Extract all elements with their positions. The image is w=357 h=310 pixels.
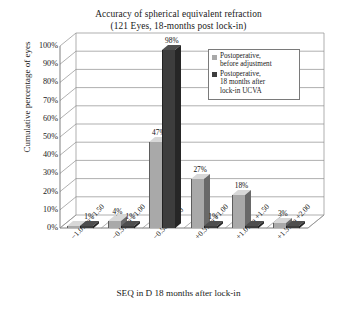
legend-item[interactable]: Postoperative,18 months afterlock-in UCV… <box>212 70 296 95</box>
legend-item-label: Postoperative,before adjustment <box>220 52 272 69</box>
bar-value-label: 1% <box>200 212 226 221</box>
bar-side-face <box>299 221 306 230</box>
legend-item[interactable]: Postoperative,before adjustment <box>212 52 296 69</box>
legend-swatch-icon <box>212 72 217 77</box>
bar-side-face <box>93 221 100 230</box>
bar-value-label: 1% <box>118 212 144 221</box>
legend-item-label: Postoperative,18 months afterlock-in UCV… <box>220 70 265 95</box>
bar-value-label: 98% <box>159 36 185 45</box>
bar-value-label: 3% <box>270 209 296 218</box>
bar-front-face <box>162 50 176 228</box>
bar-side-face <box>175 45 182 229</box>
bar-side-face <box>217 221 224 230</box>
bar-front-face <box>149 142 163 228</box>
bar-side-face <box>258 221 265 230</box>
bar-value-label: 18% <box>229 181 255 190</box>
bar-chart: Accuracy of spherical equivalent refract… <box>0 0 357 310</box>
bar-value-label: 27% <box>187 165 213 174</box>
bar-front-face <box>191 179 205 228</box>
chart-legend: Postoperative,before adjustmentPostopera… <box>208 49 300 100</box>
bar-value-label: 1% <box>76 212 102 221</box>
bar-side-face <box>134 221 141 230</box>
legend-swatch-icon <box>212 55 217 60</box>
bar-series-group: 4%47%27%18%3%1%1%98%1% <box>0 0 357 310</box>
bar-front-face <box>232 195 246 228</box>
